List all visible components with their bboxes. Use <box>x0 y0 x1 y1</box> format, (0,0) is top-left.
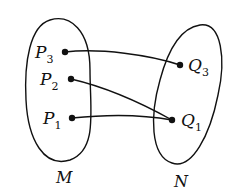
point-q1 <box>169 117 175 123</box>
label-q1: Q1 <box>181 110 202 134</box>
point-p3 <box>62 49 68 55</box>
label-p3: P3 <box>34 42 53 66</box>
mapping-diagram: P3 P2 P1 Q3 Q1 M N <box>0 0 239 194</box>
edge-p3-q3 <box>65 51 180 65</box>
label-q3: Q3 <box>188 55 209 79</box>
edge-p2-q1 <box>71 79 172 120</box>
point-p1 <box>69 115 75 121</box>
label-p1: P1 <box>42 108 61 132</box>
set-n-boundary <box>154 25 222 164</box>
set-n-label: N <box>173 172 189 191</box>
set-m-label: M <box>55 168 73 187</box>
edge-p1-q1 <box>72 116 172 120</box>
point-q3 <box>177 62 183 68</box>
point-p2 <box>68 76 74 82</box>
label-p2: P2 <box>39 69 58 93</box>
